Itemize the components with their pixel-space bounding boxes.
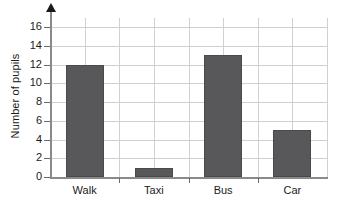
y-tick-label: 0 bbox=[18, 171, 42, 182]
y-tick-label: 4 bbox=[18, 134, 42, 145]
x-tick-mark bbox=[258, 178, 259, 183]
x-tick-label: Car bbox=[252, 184, 332, 197]
y-axis-arrow-icon bbox=[46, 3, 56, 12]
y-tick-mark bbox=[44, 121, 50, 122]
y-tick-label: 14 bbox=[18, 40, 42, 51]
gridline-vertical bbox=[154, 18, 155, 178]
gridline-vertical bbox=[327, 18, 328, 178]
x-tick-label: Walk bbox=[45, 184, 125, 197]
bar-chart: Number of pupils 0246810121416 WalkTaxiB… bbox=[0, 0, 350, 203]
bar bbox=[135, 168, 173, 177]
gridline-vertical bbox=[119, 18, 120, 178]
bar bbox=[204, 55, 242, 177]
y-tick-label: 10 bbox=[18, 77, 42, 88]
y-tick-label: 2 bbox=[18, 152, 42, 163]
y-tick-mark bbox=[44, 102, 50, 103]
x-tick-mark bbox=[119, 178, 120, 183]
bar bbox=[66, 65, 104, 177]
y-tick-mark bbox=[44, 140, 50, 141]
y-tick-label: 6 bbox=[18, 115, 42, 126]
y-tick-mark bbox=[44, 65, 50, 66]
y-tick-label: 12 bbox=[18, 59, 42, 70]
y-tick-label: 8 bbox=[18, 96, 42, 107]
x-tick-label: Bus bbox=[183, 184, 263, 197]
x-tick-mark bbox=[189, 178, 190, 183]
plot-area bbox=[50, 18, 327, 178]
y-tick-mark bbox=[44, 46, 50, 47]
y-tick-mark bbox=[44, 158, 50, 159]
y-axis-line bbox=[50, 10, 52, 179]
bar bbox=[273, 130, 311, 177]
y-tick-mark bbox=[44, 27, 50, 28]
y-tick-mark bbox=[44, 83, 50, 84]
y-tick-label: 16 bbox=[18, 21, 42, 32]
gridline-vertical bbox=[258, 18, 259, 178]
gridline-vertical bbox=[189, 18, 190, 178]
x-tick-label: Taxi bbox=[114, 184, 194, 197]
y-tick-mark bbox=[44, 177, 50, 178]
